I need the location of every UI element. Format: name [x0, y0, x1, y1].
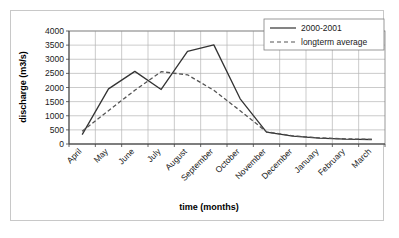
- x-label-march: March: [349, 146, 373, 170]
- y-tick-label-5: 2500: [45, 68, 64, 78]
- y-tick-label-2: 1000: [45, 111, 64, 121]
- x-label-may: May: [91, 146, 110, 165]
- chart-figure: 05001000150020002500300035004000 AprilMa…: [0, 0, 399, 238]
- legend-label-1: longterm average: [301, 37, 367, 47]
- y-tick-label-1: 500: [50, 125, 64, 135]
- x-axis-month-labels: AprilMayJuneJulyAugustSeptemberOctoberNo…: [64, 146, 373, 183]
- x-label-june: June: [116, 146, 136, 166]
- x-axis-title: time (months): [179, 202, 239, 212]
- y-tick-label-3: 1500: [45, 97, 64, 107]
- x-label-july: July: [145, 146, 163, 164]
- x-label-april: April: [64, 146, 83, 165]
- legend-label-0: 2000-2001: [301, 23, 342, 33]
- y-tick-label-0: 0: [59, 139, 64, 149]
- y-tick-label-6: 3000: [45, 54, 64, 64]
- line-chart: 05001000150020002500300035004000 AprilMa…: [0, 0, 399, 238]
- y-axis-title: discharge (m3/s): [18, 51, 28, 123]
- y-tick-label-7: 3500: [45, 40, 64, 50]
- y-tick-label-4: 2000: [45, 83, 64, 93]
- y-tick-label-8: 4000: [45, 26, 64, 36]
- x-label-february: February: [316, 146, 348, 178]
- y-axis-tick-labels: 05001000150020002500300035004000: [45, 26, 64, 149]
- legend: 2000-2001 longterm average: [264, 19, 384, 50]
